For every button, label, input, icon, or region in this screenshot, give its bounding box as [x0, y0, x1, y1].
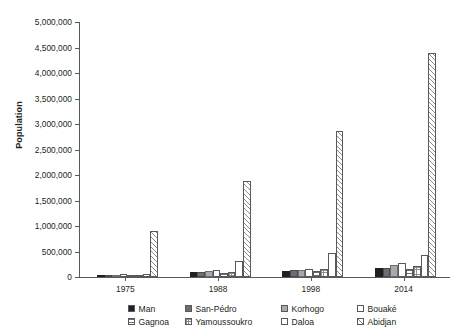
y-tick-label: 1,000,000	[0, 222, 72, 230]
y-tick	[75, 277, 79, 278]
bar	[243, 181, 251, 277]
bar	[282, 271, 290, 277]
legend-label: Abidjan	[368, 317, 397, 327]
bar	[305, 269, 313, 277]
legend-item-abidjan[interactable]: Abidjan	[357, 317, 417, 327]
bar	[190, 272, 198, 277]
bar	[228, 272, 236, 277]
bar	[313, 271, 321, 277]
bar	[413, 266, 421, 277]
legend-row-1: ManSan-PédroKorhogoBouaké	[128, 302, 428, 315]
x-tick	[125, 277, 126, 281]
bar	[235, 261, 243, 277]
legend-swatch-icon	[128, 318, 135, 325]
bar	[143, 274, 151, 277]
legend-item-korhogo[interactable]: Korhogo	[281, 304, 357, 314]
chart-legend: ManSan-PédroKorhogoBouaké GagnoaYamousso…	[128, 302, 428, 328]
legend-label: Bouaké	[368, 304, 397, 314]
bar	[127, 275, 135, 277]
bar	[428, 53, 436, 277]
legend-label: Yamoussoukro	[196, 317, 253, 327]
bar	[421, 255, 429, 277]
y-tick-label: 5,000,000	[0, 18, 72, 26]
legend-swatch-icon	[281, 318, 288, 325]
bar	[390, 265, 398, 277]
bar	[398, 263, 406, 277]
bar	[213, 270, 221, 277]
legend-label: Gagnoa	[139, 317, 170, 327]
legend-item-gagnoa[interactable]: Gagnoa	[128, 317, 185, 327]
x-tick-label: 1988	[188, 284, 248, 294]
y-tick-label: 1,500,000	[0, 197, 72, 205]
bar	[320, 269, 328, 277]
legend-swatch-icon	[357, 318, 364, 325]
bar	[220, 273, 228, 277]
y-tick-label: 3,000,000	[0, 120, 72, 128]
bar	[298, 270, 306, 277]
legend-item-daloa[interactable]: Daloa	[281, 317, 357, 327]
y-tick-label: 4,500,000	[0, 44, 72, 52]
legend-swatch-icon	[357, 305, 364, 312]
legend-item-san-p-dro[interactable]: San-Pédro	[185, 304, 281, 314]
x-tick	[218, 277, 219, 281]
legend-swatch-icon	[185, 305, 192, 312]
legend-swatch-icon	[128, 305, 135, 312]
legend-swatch-icon	[281, 305, 288, 312]
y-tick-label: 0	[0, 273, 72, 281]
bar	[97, 275, 105, 277]
legend-row-2: GagnoaYamoussoukroDaloaAbidjan	[128, 315, 428, 328]
plot-area: 0500,0001,000,0001,500,0002,000,0002,500…	[79, 22, 450, 277]
legend-label: Daloa	[292, 317, 314, 327]
bar	[205, 271, 213, 277]
bar	[197, 272, 205, 277]
legend-swatch-icon	[185, 318, 192, 325]
bar	[336, 131, 344, 277]
bar	[383, 268, 391, 277]
y-tick-label: 2,000,000	[0, 171, 72, 179]
legend-item-man[interactable]: Man	[128, 304, 185, 314]
bars-layer	[79, 22, 450, 277]
bar	[406, 269, 414, 277]
y-tick-label: 4,000,000	[0, 69, 72, 77]
legend-label: Korhogo	[292, 304, 325, 314]
y-tick-label: 2,500,000	[0, 146, 72, 154]
x-tick	[311, 277, 312, 281]
bar	[150, 231, 158, 277]
y-tick-label: 500,000	[0, 248, 72, 256]
legend-label: San-Pédro	[196, 304, 237, 314]
x-tick-label: 2014	[374, 284, 434, 294]
bar	[135, 275, 143, 277]
legend-item-yamoussoukro[interactable]: Yamoussoukro	[185, 317, 281, 327]
bar	[112, 275, 120, 277]
x-tick-label: 1975	[95, 284, 155, 294]
population-bar-chart: Population 0500,0001,000,0001,500,0002,0…	[0, 0, 459, 331]
legend-label: Man	[139, 304, 156, 314]
bar	[105, 275, 113, 277]
legend-item-bouak-[interactable]: Bouaké	[357, 304, 417, 314]
x-tick	[404, 277, 405, 281]
x-tick-label: 1998	[281, 284, 341, 294]
y-tick-label: 3,500,000	[0, 95, 72, 103]
x-axis-line	[79, 277, 450, 278]
bar	[328, 253, 336, 277]
bar	[375, 268, 383, 277]
bar	[290, 270, 298, 277]
bar	[120, 274, 128, 277]
